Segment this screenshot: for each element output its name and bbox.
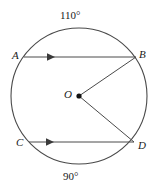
- arc-label-bottom: 90°: [63, 170, 78, 182]
- arc-label-top: 110°: [60, 9, 81, 21]
- center-point-dot: [76, 93, 81, 98]
- point-label-o: O: [64, 88, 72, 100]
- point-label-b: B: [139, 48, 146, 60]
- point-label-c: C: [16, 136, 23, 148]
- geometry-figure: 110° 90° A B C D O: [0, 0, 156, 191]
- chord-ab-arrow-icon: [47, 53, 55, 61]
- geometry-canvas: [0, 0, 156, 191]
- point-label-a: A: [12, 49, 19, 61]
- radius-ob: [79, 57, 136, 96]
- point-label-d: D: [138, 139, 146, 151]
- radius-od: [79, 96, 134, 142]
- chord-cd-arrow-icon: [46, 138, 54, 146]
